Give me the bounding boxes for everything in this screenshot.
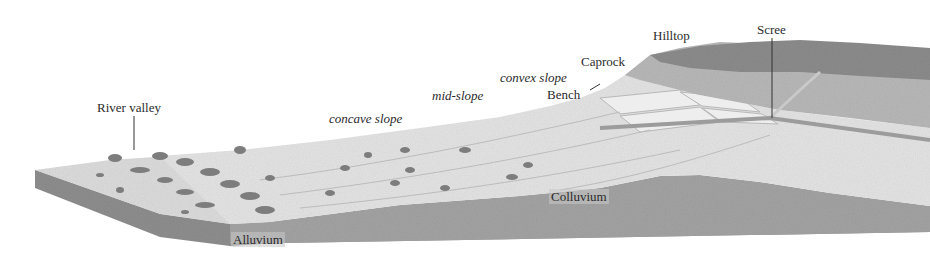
label-concave-slope: concave slope [329, 112, 402, 125]
label-caprock: Caprock [581, 55, 625, 68]
label-hilltop: Hilltop [653, 29, 690, 42]
label-scree: Scree [757, 23, 786, 36]
label-convex-slope: convex slope [500, 71, 567, 84]
bench-leader [590, 84, 600, 90]
hillslope-block-diagram [0, 0, 930, 259]
label-river-valley: River valley [97, 101, 161, 114]
label-colluvium: Colluvium [549, 189, 609, 204]
label-mid-slope: mid-slope [432, 89, 483, 102]
label-alluvium: Alluvium [231, 232, 285, 247]
label-bench: Bench [547, 88, 580, 101]
